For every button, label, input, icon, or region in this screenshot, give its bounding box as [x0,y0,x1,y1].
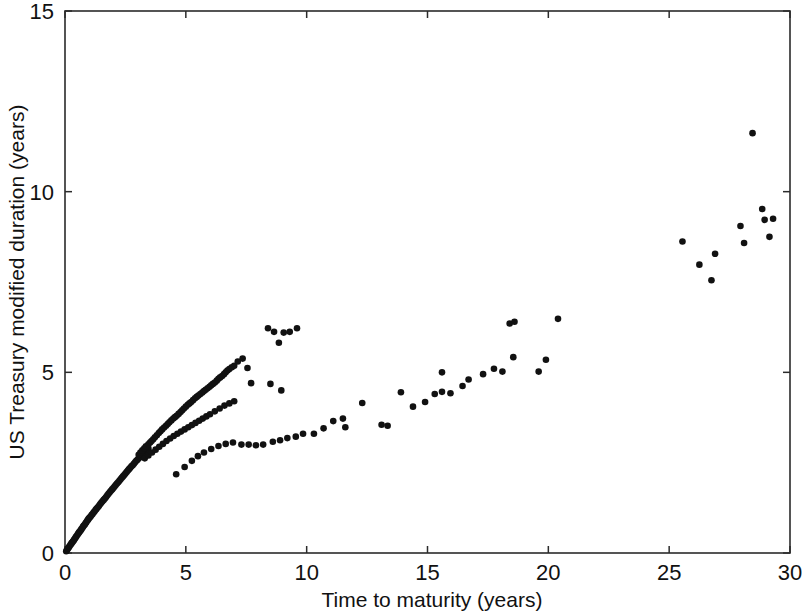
data-point [253,442,260,449]
data-point [439,389,446,396]
data-point [181,464,188,471]
y-tick-label: 5 [42,360,54,385]
data-point [340,415,347,422]
data-point [208,446,215,453]
data-point [761,217,768,224]
data-point [173,471,180,478]
data-point [238,441,245,448]
y-axis-title: US Treasury modified duration (years) [5,105,28,460]
data-point [770,215,777,222]
data-point [696,261,703,268]
data-point [410,403,417,410]
data-point [759,206,766,213]
data-point [189,458,196,465]
data-point [378,421,385,428]
data-point [712,251,719,258]
data-point [708,277,715,284]
data-point [300,430,307,437]
data-point [398,389,405,396]
data-point [245,441,252,448]
x-tick-label: 15 [415,560,439,585]
data-point [248,380,255,387]
data-point [447,390,454,397]
data-point [359,400,366,407]
data-point [422,399,429,406]
x-tick-label: 20 [536,560,560,585]
data-point [342,424,349,431]
data-point [265,325,272,332]
data-point [239,355,246,362]
data-point [499,368,506,375]
data-point [330,418,337,425]
data-point [260,441,267,448]
data-point [741,240,748,247]
plot-canvas: 051015202530 051015 Time to maturity (ye… [0,0,802,616]
data-point [510,354,517,361]
data-point [431,391,438,398]
y-tick-label: 10 [30,180,54,205]
data-point [535,368,542,375]
data-point [271,329,278,336]
data-point [480,371,487,378]
y-tick-labels: 051015 [30,0,54,566]
data-point [679,238,686,245]
data-point [749,130,756,137]
data-point [320,425,327,432]
data-point [286,329,293,336]
data-point [439,369,446,376]
data-point [555,316,562,323]
data-point [294,325,301,332]
data-point [311,430,318,437]
tick-marks [65,11,790,553]
data-point [215,443,222,450]
data-point [277,437,284,444]
data-point [292,433,299,440]
x-tick-label: 0 [59,560,71,585]
data-point [244,365,251,372]
data-point [195,453,202,460]
data-point [280,329,287,336]
x-tick-label: 5 [180,560,192,585]
data-point [543,356,550,363]
x-tick-label: 30 [778,560,802,585]
axis-frame [65,11,790,553]
data-point [230,439,237,446]
data-point [511,318,518,325]
data-point [201,449,208,456]
data-point [231,398,238,405]
data-point [276,339,283,346]
x-tick-label: 10 [294,560,318,585]
x-axis-title: Time to maturity (years) [322,588,543,611]
data-point [270,438,277,445]
data-point [267,381,274,388]
data-point [459,383,466,390]
data-point [491,365,498,372]
x-tick-label: 25 [657,560,681,585]
data-point [278,387,285,394]
data-point [766,234,773,241]
data-point [222,441,229,448]
data-point [737,223,744,230]
data-point [384,423,391,430]
data-point [465,376,472,383]
data-point-series [63,130,776,555]
data-point [284,435,291,442]
y-tick-label: 15 [30,0,54,24]
scatter-chart-figure: 051015202530 051015 Time to maturity (ye… [0,0,802,616]
y-tick-label: 0 [42,541,54,566]
x-tick-labels: 051015202530 [59,560,802,585]
